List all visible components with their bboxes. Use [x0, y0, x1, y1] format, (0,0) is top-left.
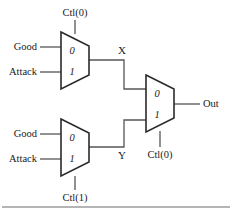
net-label-x: X — [118, 45, 126, 56]
mux-top-left-shape — [61, 32, 89, 89]
output-label-out: Out — [203, 99, 219, 110]
port-label-0-bottom-mux: 0 — [69, 133, 74, 144]
port-label-0-right-mux: 0 — [154, 89, 159, 100]
port-label-0-top-mux: 0 — [69, 46, 74, 57]
net-label-y: Y — [118, 150, 126, 161]
mux-bottom-left-shape — [61, 119, 89, 176]
port-label-1-top-mux: 1 — [69, 67, 74, 78]
wire-x-net — [89, 60, 147, 89]
input-label-good-top: Good — [14, 42, 37, 53]
input-label-attack-top: Attack — [9, 67, 37, 78]
ctl-label-top-mux: Ctl(0) — [62, 8, 87, 19]
ctl-label-right-mux: Ctl(0) — [147, 150, 172, 161]
diagram-canvas — [0, 0, 232, 217]
port-label-1-right-mux: 1 — [154, 110, 159, 121]
ctl-label-bottom-mux: Ctl(1) — [62, 193, 87, 204]
mux-circuit-diagram: Ctl(0) Good Attack 0 1 X Good Attack 0 1… — [0, 0, 232, 217]
mux-right-shape — [146, 75, 174, 132]
wire-y-net — [89, 120, 147, 147]
input-label-good-bottom: Good — [14, 129, 37, 140]
input-label-attack-bottom: Attack — [9, 154, 37, 165]
port-label-1-bottom-mux: 1 — [69, 154, 74, 165]
